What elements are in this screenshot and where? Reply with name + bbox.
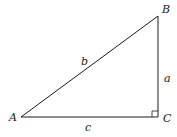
vertex-label-b: B [161, 3, 170, 16]
vertex-label-c: C [163, 112, 172, 125]
right-angle-marker [152, 111, 158, 117]
side-label-a: a [164, 72, 171, 85]
side-label-b: b [81, 55, 88, 68]
side-b-hypotenuse [21, 16, 158, 117]
vertex-label-a: A [8, 111, 17, 124]
right-triangle-diagram: A B C b a c [0, 0, 177, 137]
side-label-c: c [85, 121, 91, 134]
